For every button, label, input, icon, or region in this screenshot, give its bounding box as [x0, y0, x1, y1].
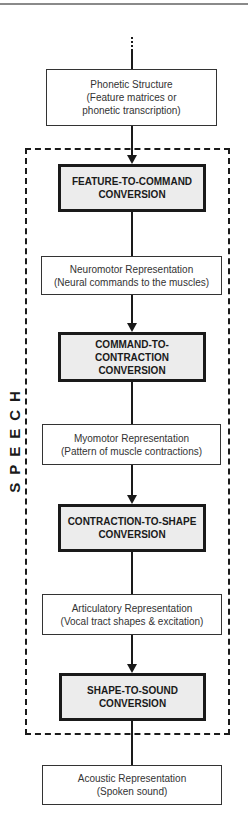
node-title: Phonetic Structure	[90, 78, 172, 91]
node-title: Myomotor Representation	[74, 432, 189, 445]
node-articulatory-representation: Articulatory Representation (Vocal tract…	[42, 594, 222, 635]
node-subtitle: phonetic transcription)	[82, 104, 180, 117]
node-label: CONVERSION	[98, 528, 165, 541]
arrow-down-icon	[127, 323, 137, 332]
node-subtitle: (Neural commands to the muscles)	[54, 276, 209, 289]
node-command-to-contraction-conversion: COMMAND-TO- CONTRACTION CONVERSION	[58, 332, 206, 382]
node-phonetic-structure: Phonetic Structure (Feature matrices or …	[46, 69, 217, 126]
arrow-down-icon	[127, 664, 137, 673]
node-label: CONTRACTION-TO-SHAPE	[68, 515, 197, 528]
node-label: CONVERSION	[99, 697, 166, 710]
connector-line	[131, 212, 133, 256]
node-subtitle: (Pattern of muscle contractions)	[61, 445, 202, 458]
connector-line	[131, 465, 133, 496]
node-myomotor-representation: Myomotor Representation (Pattern of musc…	[42, 424, 221, 465]
connector-line	[131, 635, 133, 665]
node-shape-to-sound-conversion: SHAPE-TO-SOUND CONVERSION	[59, 673, 206, 721]
connector-line	[131, 295, 133, 324]
node-title: Acoustic Representation	[78, 772, 186, 785]
node-acoustic-representation: Acoustic Representation (Spoken sound)	[42, 765, 222, 805]
node-label: SHAPE-TO-SOUND	[87, 684, 178, 697]
node-title: Articulatory Representation	[72, 602, 193, 615]
incoming-dotted-connector	[131, 37, 133, 51]
speech-label: SPEECH	[4, 368, 24, 508]
node-label: CONTRACTION	[95, 351, 169, 364]
connector-line	[131, 382, 133, 424]
node-subtitle: (Spoken sound)	[97, 785, 168, 798]
node-label: CONVERSION	[98, 188, 165, 201]
node-subtitle: (Vocal tract shapes & excitation)	[61, 615, 204, 628]
node-subtitle: (Feature matrices or	[86, 91, 176, 104]
connector-line	[131, 51, 133, 69]
node-title: Neuromotor Representation	[70, 263, 193, 276]
node-contraction-to-shape-conversion: CONTRACTION-TO-SHAPE CONVERSION	[58, 504, 206, 552]
top-rule	[0, 3, 248, 5]
speech-label-text: SPEECH	[6, 383, 23, 493]
connector-line	[131, 552, 133, 594]
connector-line	[131, 721, 133, 765]
node-feature-to-command-conversion: FEATURE-TO-COMMAND CONVERSION	[58, 164, 206, 212]
node-label: COMMAND-TO-	[95, 338, 169, 351]
node-label: CONVERSION	[98, 364, 165, 377]
node-neuromotor-representation: Neuromotor Representation (Neural comman…	[41, 256, 222, 295]
node-label: FEATURE-TO-COMMAND	[72, 175, 192, 188]
arrow-down-icon	[127, 495, 137, 504]
